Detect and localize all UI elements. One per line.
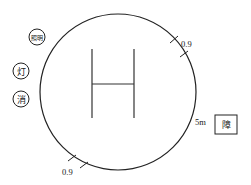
h-symbol xyxy=(92,49,134,118)
landing-pad-circle xyxy=(40,14,196,170)
lamp-marker-label: 灯 xyxy=(17,67,26,77)
heliport-diagram: 0.9 0.9 照明 灯 消 5m 障 xyxy=(0,0,251,185)
fire-marker-label: 消 xyxy=(17,94,26,105)
obstacle-marker: 障 xyxy=(215,115,237,134)
lamp-marker: 灯 xyxy=(13,63,29,79)
obstacle-distance-label: 5m xyxy=(195,117,206,127)
bottom-left-gap-label: 0.9 xyxy=(62,167,73,177)
top-right-gap-label: 0.9 xyxy=(181,39,192,49)
obstacle-label: 障 xyxy=(222,119,231,130)
lighting-marker: 照明 xyxy=(29,29,45,45)
fire-marker: 消 xyxy=(13,91,29,107)
lighting-marker-label: 照明 xyxy=(31,35,43,42)
